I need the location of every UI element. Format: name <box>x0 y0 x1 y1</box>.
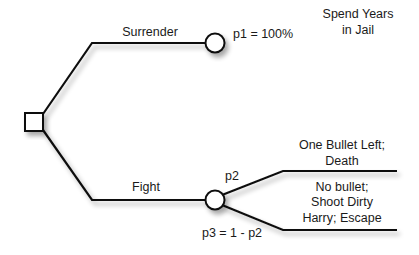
fight-branch: Fight p2 p3 = 1 - p2 One Bullet Left; De… <box>43 130 397 240</box>
jail-outcome-line2: in Jail <box>342 23 374 37</box>
decision-node <box>25 113 43 131</box>
jail-outcome-line1: Spend Years <box>323 7 394 21</box>
escape-outcome-line2: Shoot Dirty <box>311 195 374 209</box>
p3-probability-label: p3 = 1 - p2 <box>202 226 262 240</box>
p1-probability-label: p1 = 100% <box>233 27 293 41</box>
death-outcome-line <box>222 171 397 195</box>
escape-outcome-line3: Harry; Escape <box>302 211 381 225</box>
chance-node-fight <box>206 191 225 210</box>
death-outcome-line2: Death <box>325 154 358 168</box>
chance-node-surrender <box>206 34 225 53</box>
fight-branch-line <box>43 130 206 200</box>
escape-outcome-line1: No bullet; <box>316 180 369 194</box>
surrender-branch-line <box>43 43 206 114</box>
surrender-branch: Surrender p1 = 100% Spend Years in Jail <box>43 7 397 114</box>
p2-probability-label: p2 <box>225 169 239 183</box>
death-outcome-line1: One Bullet Left; <box>299 138 385 152</box>
decision-tree-diagram: Surrender p1 = 100% Spend Years in Jail … <box>0 0 419 255</box>
surrender-label: Surrender <box>122 25 178 39</box>
fight-label: Fight <box>132 180 160 194</box>
